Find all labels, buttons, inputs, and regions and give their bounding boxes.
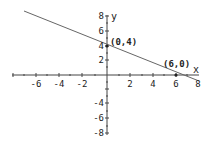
y-tick-label: 6 bbox=[99, 26, 104, 36]
y-axis-label: y bbox=[111, 11, 117, 22]
x-tick-label: -6 bbox=[31, 79, 42, 89]
x-tick-label: 8 bbox=[195, 79, 200, 89]
y-tick-label: -4 bbox=[93, 98, 104, 108]
point-0-4 bbox=[105, 44, 108, 47]
x-tick-label: 2 bbox=[127, 79, 132, 89]
x-tick-label: -4 bbox=[54, 79, 65, 89]
y-tick-label: -8 bbox=[93, 128, 104, 138]
point-label-0-4: (0,4) bbox=[110, 37, 137, 47]
point-6-0 bbox=[174, 73, 177, 76]
x-tick-label: -2 bbox=[77, 79, 88, 89]
y-tick-label: 4 bbox=[99, 41, 104, 51]
y-tick-label: 8 bbox=[99, 11, 104, 21]
x-axis-label: x bbox=[193, 64, 199, 75]
point-label-6-0: (6,0) bbox=[163, 59, 190, 69]
x-tick-label: 6 bbox=[173, 79, 178, 89]
x-tick-label: 4 bbox=[150, 79, 155, 89]
y-tick-label: 2 bbox=[99, 55, 104, 65]
y-tick-label: -6 bbox=[93, 113, 104, 123]
graph: -6 -4 -2 2 4 6 8 8 6 4 2 -4 -6 -8 y x (0… bbox=[0, 0, 211, 145]
